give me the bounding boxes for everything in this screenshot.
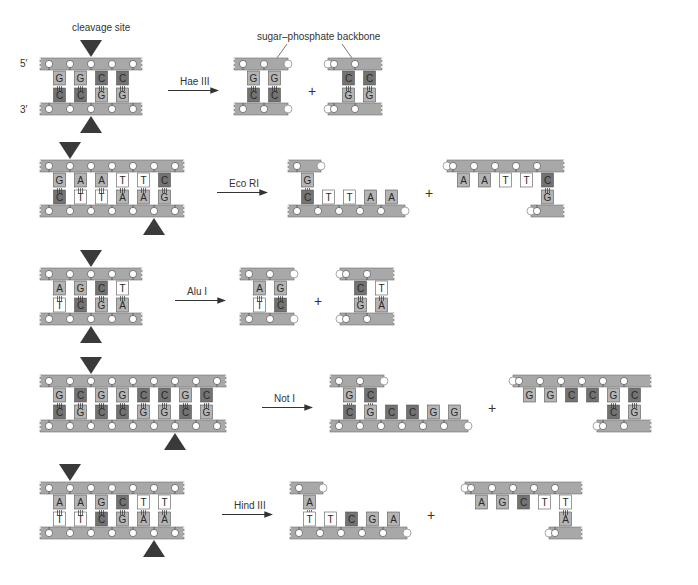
phosphate-icon [398, 422, 405, 429]
phosphate-icon [171, 207, 178, 214]
base-letter: C [98, 283, 105, 294]
phosphate-icon [87, 529, 94, 536]
phosphate-icon [266, 270, 273, 277]
phosphate-icon [330, 60, 337, 67]
phosphate-icon [330, 105, 337, 112]
base-letter: T [346, 192, 352, 203]
base-letter: A [119, 300, 126, 311]
phosphate-icon [419, 422, 426, 429]
five-prime-label: 5′ [20, 58, 28, 69]
phosphate-icon [551, 529, 558, 536]
phosphate-icon [295, 484, 302, 491]
base-letter: C [98, 514, 105, 525]
base-letter: A [256, 283, 263, 294]
base-letter: T [378, 283, 384, 294]
base-letter: G [77, 73, 85, 84]
phosphate-icon [66, 162, 73, 169]
base-letter: T [140, 497, 146, 508]
phosphate-icon [66, 315, 73, 322]
phosphate-icon [351, 60, 358, 67]
base-letter: G [345, 90, 353, 101]
cleavage-marker-bottom-icon [80, 326, 102, 343]
plus-sign: + [427, 507, 435, 523]
base-letter: C [271, 90, 278, 101]
cleavage-marker-bottom-icon [143, 540, 165, 557]
base-letter: T [502, 175, 508, 186]
base-letter: C [77, 300, 84, 311]
panel-alu-i: ATGCCGTAAlu IATGC+CGTA [40, 250, 394, 343]
cleavage-marker-top-icon [80, 357, 102, 374]
phosphate-icon [316, 529, 323, 536]
cut-end-notch [464, 422, 472, 430]
base-letter: C [56, 192, 63, 203]
phosphate-icon [171, 422, 178, 429]
phosphate-icon [150, 529, 157, 536]
base-letter: C [366, 73, 373, 84]
phosphate-icon [129, 105, 136, 112]
base-letter: C [568, 390, 575, 401]
phosphate-icon [620, 422, 627, 429]
phosphate-icon [66, 270, 73, 277]
base-letter: C [161, 390, 168, 401]
backbone-strand [447, 160, 564, 172]
phosphate-icon [171, 162, 178, 169]
phosphate-icon [260, 105, 267, 112]
base-letter: C [56, 90, 63, 101]
phosphate-icon [108, 484, 115, 491]
base-letter: A [481, 175, 488, 186]
base-letter: C [304, 192, 311, 203]
phosphate-icon [108, 60, 115, 67]
base-letter: G [451, 407, 459, 418]
cut-end-notch [284, 105, 292, 113]
phosphate-icon [87, 207, 94, 214]
phosphate-icon [379, 529, 386, 536]
base-letter: C [119, 73, 126, 84]
base-letter: A [77, 497, 84, 508]
base-letter: G [250, 73, 258, 84]
base-letter: G [430, 407, 438, 418]
three-prime-label: 3′ [20, 104, 28, 115]
phosphate-icon [358, 529, 365, 536]
backbone-label: sugar–phosphate backbone [257, 31, 381, 42]
backbone-strand [465, 482, 582, 494]
base-letter: A [56, 283, 63, 294]
base-letter: G [56, 73, 64, 84]
enzyme-name: Alu I [187, 286, 207, 297]
phosphate-icon [66, 60, 73, 67]
base-letter: C [182, 407, 189, 418]
base-letter: C [348, 514, 355, 525]
phosphate-icon [129, 422, 136, 429]
phosphate-icon [108, 529, 115, 536]
base-letter: T [562, 497, 568, 508]
phosphate-icon [45, 377, 52, 384]
phosphate-icon [533, 207, 540, 214]
backbone-strand [288, 160, 321, 172]
phosphate-icon [129, 207, 136, 214]
plus-sign: + [488, 400, 496, 416]
cut-end-notch [284, 60, 292, 68]
phosphate-icon [108, 422, 115, 429]
base-letter: G [119, 514, 127, 525]
phosphate-icon [45, 484, 52, 491]
phosphate-icon [335, 377, 342, 384]
base-letter: C [56, 407, 63, 418]
base-letter: T [119, 175, 125, 186]
base-letter: G [140, 407, 148, 418]
cut-end-notch [401, 207, 409, 215]
base-letter: T [541, 497, 547, 508]
base-letter: C [357, 283, 364, 294]
enzyme-panels: GCGCCGCGHae IIIGCGC+CGCGGCATATTATACGEco … [40, 40, 651, 557]
cleavage-marker-top-icon [80, 250, 102, 267]
cut-end-notch [290, 315, 298, 323]
phosphate-icon [108, 162, 115, 169]
phosphate-icon [66, 484, 73, 491]
base-letter: A [367, 192, 374, 203]
phosphate-icon [108, 207, 115, 214]
base-letter: G [304, 175, 312, 186]
base-letter: C [346, 407, 353, 418]
base-letter: G [119, 90, 127, 101]
panel-eco-ri: GCATATTATACGEco RIGCTTAA+AATTCG [40, 142, 564, 235]
phosphate-icon [356, 422, 363, 429]
phosphate-icon [87, 422, 94, 429]
cleavage-marker-bottom-icon [164, 433, 186, 450]
